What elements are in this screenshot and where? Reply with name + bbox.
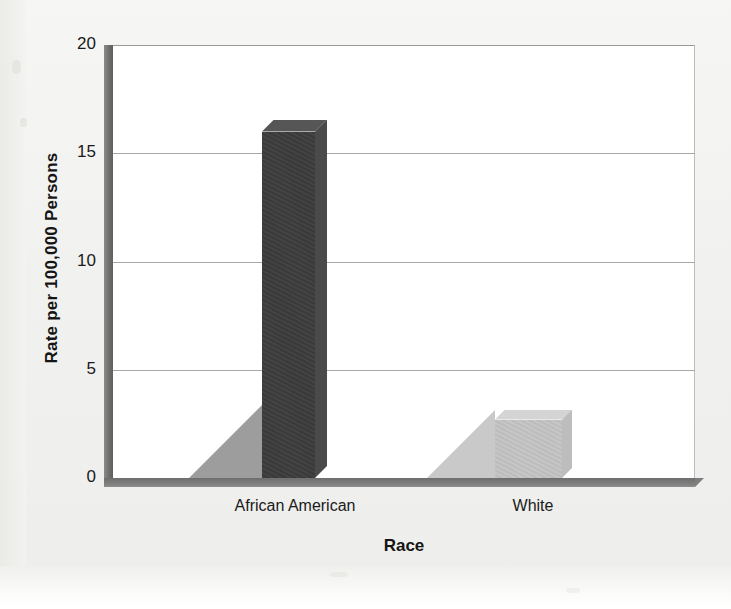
bar-front-face xyxy=(495,420,562,478)
x-tick-label-white: White xyxy=(478,497,588,515)
bar-african-american[interactable] xyxy=(262,120,327,478)
bar-front-face xyxy=(262,132,315,478)
scanned-page: Rate per 100,000 Persons 20 15 10 5 0 xyxy=(0,0,731,609)
plot-floor xyxy=(104,478,695,487)
y-tick-label-0: 0 xyxy=(50,467,96,487)
y-tick-label-10: 10 xyxy=(50,251,96,271)
x-tick-label-african-american: African American xyxy=(205,497,385,515)
x-axis-title: Race xyxy=(113,536,695,556)
bar-shadow-african-american xyxy=(189,405,262,478)
plot-floor-corner xyxy=(695,478,704,487)
y-tick-label-5: 5 xyxy=(50,359,96,379)
gridline-10 xyxy=(113,262,695,263)
bar-chart: Rate per 100,000 Persons 20 15 10 5 0 xyxy=(0,0,731,609)
bar-top-face xyxy=(495,410,572,420)
bar-white[interactable] xyxy=(495,410,572,478)
gridline-5 xyxy=(113,370,695,371)
plot-left-wall xyxy=(104,45,113,487)
y-tick-label-15: 15 xyxy=(50,142,96,162)
bar-shadow-white xyxy=(427,410,495,478)
y-tick-label-20: 20 xyxy=(50,34,96,54)
bar-side-face xyxy=(315,120,327,478)
bar-side-face xyxy=(562,410,572,478)
gridline-15 xyxy=(113,153,695,154)
